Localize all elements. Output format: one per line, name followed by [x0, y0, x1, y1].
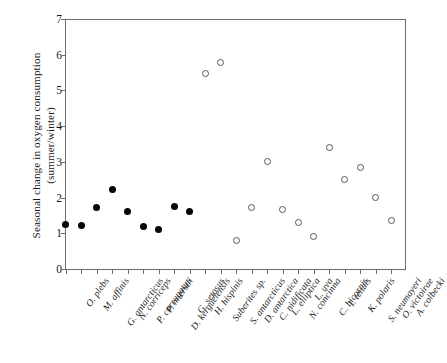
- data-point-filled: [186, 208, 193, 215]
- y-axis-tick: [61, 90, 65, 91]
- y-axis-tick: [61, 233, 65, 234]
- x-axis-tick: [267, 269, 268, 274]
- data-point-open: [388, 217, 395, 224]
- x-axis-label: A. colbecki: [414, 276, 447, 318]
- x-axis-tick: [360, 269, 361, 274]
- x-axis-label: D. antarctica: [262, 276, 300, 324]
- x-axis-label: Suberites sp.: [230, 276, 267, 323]
- y-axis-tick-label: 4: [32, 121, 62, 131]
- y-axis-tick: [61, 162, 65, 163]
- x-axis-label: L. elliptica: [289, 276, 322, 317]
- y-axis-tick-labels: 01234567: [32, 19, 62, 270]
- y-axis-tick: [61, 19, 65, 20]
- x-axis-label: G. setosus: [195, 276, 226, 315]
- plot-border-top: [65, 19, 406, 20]
- data-point-open: [357, 164, 364, 171]
- y-axis-tick-label: 7: [32, 14, 62, 24]
- y-axis-tick-label: 0: [32, 264, 62, 274]
- x-axis-tick: [112, 269, 113, 274]
- x-axis-tick: [329, 269, 330, 274]
- x-axis-label: S. neumayeri: [386, 276, 424, 324]
- data-point-open: [248, 204, 255, 211]
- y-axis-tick: [61, 55, 65, 56]
- data-point-filled: [62, 221, 69, 228]
- data-point-open: [202, 70, 209, 77]
- data-point-filled: [171, 203, 178, 210]
- x-axis-label: M. affinis: [101, 276, 131, 313]
- y-axis-tick-label: 1: [32, 228, 62, 238]
- y-axis-tick: [61, 269, 65, 270]
- y-axis-tick: [61, 198, 65, 199]
- data-point-open: [295, 219, 302, 226]
- y-axis-tick: [61, 126, 65, 127]
- x-axis-tick: [236, 269, 237, 274]
- x-axis-tick: [345, 269, 346, 274]
- x-axis-tick: [376, 269, 377, 274]
- x-axis-tick: [81, 269, 82, 274]
- x-axis-label: C. bicornis: [336, 276, 369, 318]
- x-axis-label: O. plebs: [83, 276, 110, 309]
- x-axis-tick: [174, 269, 175, 274]
- x-axis-tick: [283, 269, 284, 274]
- data-point-filled: [124, 208, 131, 215]
- data-point-open: [264, 158, 271, 165]
- x-axis-label: I. tenuis: [347, 276, 373, 308]
- x-axis-tick: [66, 269, 67, 274]
- x-axis-tick: [298, 269, 299, 274]
- y-axis-line: [65, 19, 66, 270]
- data-point-filled: [155, 226, 162, 233]
- x-axis-tick: [128, 269, 129, 274]
- data-point-open: [310, 233, 317, 240]
- x-axis-tick: [252, 269, 253, 274]
- x-axis-label: S. antarcticus: [247, 276, 286, 326]
- plot-area: [65, 19, 406, 270]
- x-axis-label: G. antarcticus: [124, 276, 164, 328]
- x-axis-label: H. hispinis: [212, 276, 245, 317]
- x-axis-tick: [97, 269, 98, 274]
- x-axis-tick: [190, 269, 191, 274]
- x-axis-tick: [221, 269, 222, 274]
- x-axis-label: N. corriceps: [137, 276, 173, 322]
- data-point-open: [326, 144, 333, 151]
- x-axis-label: D. kerguelensis: [188, 276, 231, 332]
- x-axis-label: O. victoirae: [400, 276, 435, 320]
- y-axis-tick-label: 6: [32, 50, 62, 60]
- data-point-filled: [109, 186, 116, 193]
- data-point-open: [279, 206, 286, 213]
- x-axis-label: N. concinna: [307, 276, 342, 321]
- x-axis-tick: [314, 269, 315, 274]
- x-axis-label: P. mierstii: [164, 276, 195, 314]
- y-axis-tick-label: 2: [32, 193, 62, 203]
- x-axis-tick: [205, 269, 206, 274]
- data-point-open: [341, 176, 348, 183]
- x-axis-tick: [391, 269, 392, 274]
- x-axis-label: K. polaris: [365, 276, 396, 314]
- plot-border-right: [405, 19, 406, 270]
- data-point-filled: [140, 223, 147, 230]
- x-axis-tick: [143, 269, 144, 274]
- y-axis-tick-label: 5: [32, 85, 62, 95]
- data-point-open: [217, 59, 224, 66]
- x-axis-label: L. uva: [312, 276, 334, 302]
- y-axis-tick-label: 3: [32, 157, 62, 167]
- data-point-filled: [93, 204, 100, 211]
- data-point-filled: [78, 222, 85, 229]
- data-point-open: [372, 194, 379, 201]
- data-point-open: [233, 237, 240, 244]
- x-axis-tick: [159, 269, 160, 274]
- x-axis-label: P. corrugatus: [154, 276, 192, 325]
- x-axis-label: C. nidificata: [277, 276, 313, 322]
